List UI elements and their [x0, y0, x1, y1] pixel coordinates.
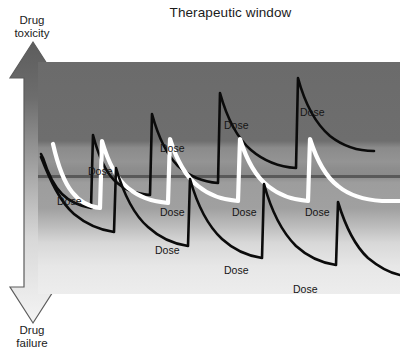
- dose-label-high-2: Dose: [160, 143, 185, 154]
- figure-root: Therapeutic window Drug toxicity Drug fa…: [0, 0, 409, 362]
- dose-label-optimal-3: Dose: [232, 207, 257, 218]
- dose-label-low-3: Dose: [293, 284, 318, 295]
- dose-label-high-4: Dose: [300, 107, 325, 118]
- axis-label-drug-toxicity-line2: toxicity: [0, 27, 64, 40]
- axis-label-drug-failure-line2: failure: [0, 337, 64, 350]
- dose-label-optimal-4: Dose: [305, 207, 330, 218]
- dose-label-high-3: Dose: [224, 120, 249, 131]
- dose-label-optimal-1: Dose: [57, 196, 82, 207]
- axis-label-drug-failure: Drug failure: [0, 324, 64, 350]
- dose-label-low-2: Dose: [224, 265, 249, 276]
- dose-label-high-1: Dose: [88, 166, 113, 177]
- axis-label-drug-toxicity-line1: Drug: [0, 14, 64, 27]
- plot-area: [38, 62, 400, 294]
- axis-label-drug-failure-line1: Drug: [0, 324, 64, 337]
- dose-label-low-1: Dose: [155, 245, 180, 256]
- dose-label-optimal-2: Dose: [160, 207, 185, 218]
- axis-label-drug-toxicity: Drug toxicity: [0, 14, 64, 40]
